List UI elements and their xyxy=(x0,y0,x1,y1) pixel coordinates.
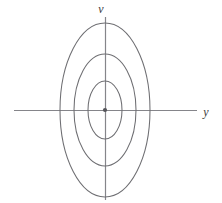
phase-portrait-canvas: v y xyxy=(0,0,222,203)
horizontal-axis-label: y xyxy=(202,105,209,119)
vertical-axis-label: v xyxy=(98,2,104,16)
origin-dot xyxy=(103,108,107,112)
phase-portrait-figure: v y xyxy=(0,0,222,203)
